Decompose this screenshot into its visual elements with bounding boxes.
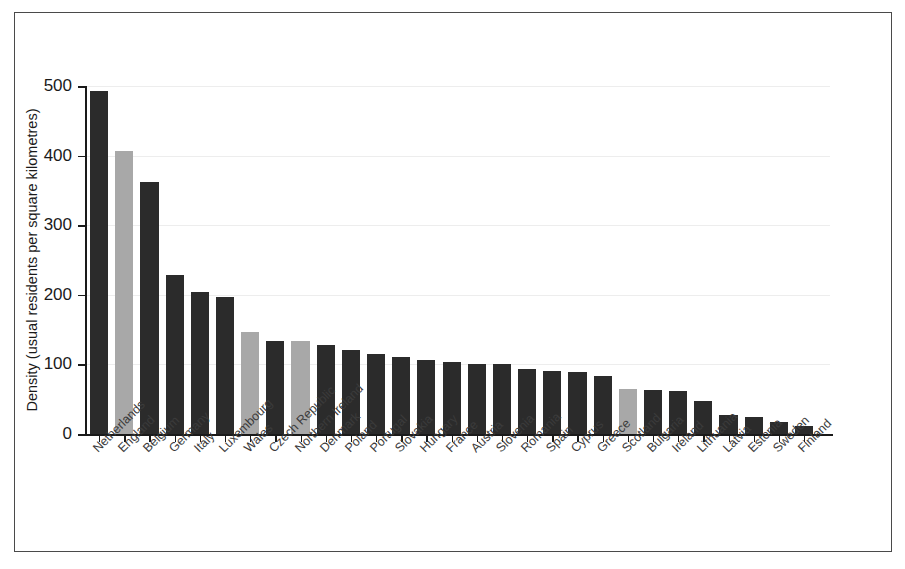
screenshot-canvas: Density (usual residents per square kilo… <box>0 0 905 569</box>
bar-chart: Density (usual residents per square kilo… <box>0 0 905 569</box>
plot-area <box>86 86 830 434</box>
y-axis-tick <box>78 364 85 366</box>
y-axis-tick <box>78 295 85 297</box>
y-axis-tick-label: 200 <box>26 286 72 303</box>
bar[interactable] <box>115 151 133 434</box>
y-axis-tick <box>78 434 85 436</box>
bar[interactable] <box>140 182 158 434</box>
y-axis-tick <box>78 225 85 227</box>
bar[interactable] <box>90 91 108 434</box>
y-axis-title: Density (usual residents per square kilo… <box>22 86 42 434</box>
bar[interactable] <box>568 372 586 434</box>
bar[interactable] <box>166 275 184 434</box>
y-axis-tick-label: 0 <box>26 425 72 442</box>
y-axis-tick <box>78 86 85 88</box>
bar[interactable] <box>216 297 234 434</box>
y-axis-tick-label: 300 <box>26 216 72 233</box>
y-axis-tick <box>78 156 85 158</box>
y-axis-tick-label: 400 <box>26 147 72 164</box>
y-axis-tick-label: 100 <box>26 355 72 372</box>
bar[interactable] <box>266 341 284 434</box>
y-axis-tick-label: 500 <box>26 77 72 94</box>
